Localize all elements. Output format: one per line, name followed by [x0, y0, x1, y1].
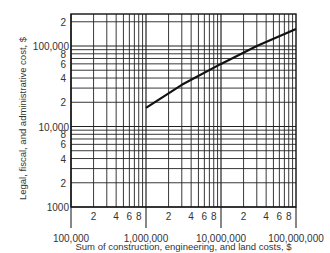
x-minor-tick-label: 6	[127, 211, 133, 222]
x-minor-tick-label: 4	[188, 211, 194, 222]
y-minor-tick-label: 6	[60, 59, 66, 70]
x-minor-tick-label: 8	[286, 211, 292, 222]
y-major-tick-label: 1000	[47, 202, 70, 213]
log-log-chart: 100,0001,000,00010,000,000100,000,000246…	[0, 0, 330, 253]
x-minor-tick-label: 2	[166, 211, 172, 222]
y-minor-tick-label: 4	[60, 154, 66, 165]
x-axis-title: Sum of construction, engineering, and la…	[76, 241, 293, 252]
x-minor-tick-label: 4	[113, 211, 119, 222]
y-minor-tick-label: 2	[60, 17, 66, 28]
x-minor-tick-label: 2	[241, 211, 247, 222]
x-minor-tick-label: 6	[277, 211, 283, 222]
y-minor-tick-label: 8	[60, 129, 66, 140]
y-minor-tick-label: 6	[60, 139, 66, 150]
x-minor-tick-label: 2	[91, 211, 97, 222]
y-axis-title: Legal, fiscal, and administrative cost, …	[17, 36, 28, 200]
y-minor-tick-label: 2	[60, 97, 66, 108]
y-minor-tick-label: 4	[60, 73, 66, 84]
x-minor-tick-label: 8	[136, 211, 142, 222]
x-minor-tick-label: 4	[263, 211, 269, 222]
y-minor-tick-label: 2	[60, 178, 66, 189]
y-minor-tick-label: 8	[60, 49, 66, 60]
x-minor-tick-label: 8	[211, 211, 217, 222]
x-minor-tick-label: 6	[202, 211, 208, 222]
